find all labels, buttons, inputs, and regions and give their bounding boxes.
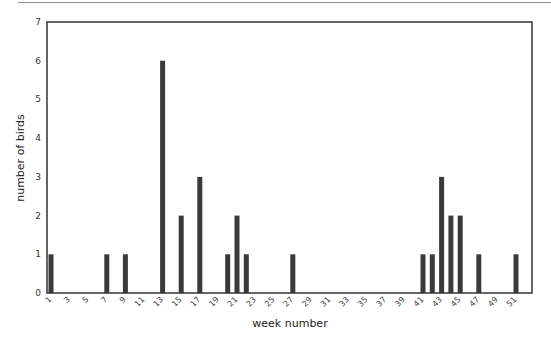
- bar-week-42: [430, 254, 435, 293]
- y-tick-label: 4: [35, 133, 41, 143]
- x-tick-label: 7: [99, 295, 109, 305]
- x-tick-label: 13: [151, 295, 165, 309]
- x-tick-label: 35: [356, 295, 370, 309]
- x-tick-label: 47: [468, 295, 482, 309]
- bar-week-45: [458, 216, 463, 293]
- x-tick-label: 33: [337, 295, 351, 309]
- x-tick-label: 5: [81, 295, 91, 305]
- bar-week-22: [244, 254, 249, 293]
- x-tick-label: 21: [226, 295, 240, 309]
- bar-week-15: [179, 216, 184, 293]
- x-tick-label: 1: [43, 295, 53, 305]
- x-tick-label: 49: [486, 295, 500, 309]
- bar-week-43: [439, 177, 444, 293]
- bars-group: [49, 61, 519, 293]
- x-tick-label: 45: [449, 295, 463, 309]
- x-tick-label: 23: [244, 295, 258, 309]
- bar-week-17: [197, 177, 202, 293]
- x-tick-label: 15: [170, 295, 184, 309]
- y-axis-title: number of birds: [14, 114, 27, 202]
- bar-week-41: [421, 254, 426, 293]
- y-tick-label: 0: [35, 288, 41, 298]
- x-tick-label: 29: [300, 295, 314, 309]
- x-axis-ticks: 1357911131517192123252729313335373941434…: [43, 295, 518, 309]
- bar-week-20: [225, 254, 230, 293]
- bar-week-27: [290, 254, 295, 293]
- x-tick-label: 11: [133, 295, 147, 309]
- y-tick-label: 2: [35, 211, 41, 221]
- x-tick-label: 17: [189, 295, 203, 309]
- x-tick-label: 9: [118, 295, 128, 305]
- x-tick-label: 3: [62, 295, 72, 305]
- bar-week-21: [235, 216, 240, 293]
- bar-week-9: [123, 254, 128, 293]
- x-tick-label: 41: [412, 295, 426, 309]
- x-tick-label: 27: [282, 295, 296, 309]
- y-tick-label: 7: [35, 17, 41, 27]
- y-tick-label: 1: [35, 249, 41, 259]
- y-tick-label: 5: [35, 94, 41, 104]
- y-axis-ticks: 01234567: [35, 17, 41, 298]
- bar-week-51: [514, 254, 519, 293]
- x-tick-label: 39: [393, 295, 407, 309]
- bar-week-47: [476, 254, 481, 293]
- y-tick-label: 3: [35, 172, 41, 182]
- x-tick-label: 37: [375, 295, 389, 309]
- y-tick-label: 6: [35, 56, 41, 66]
- bar-week-7: [104, 254, 109, 293]
- x-tick-label: 25: [263, 295, 277, 309]
- bar-week-13: [160, 61, 165, 293]
- x-axis-title: week number: [252, 317, 328, 330]
- x-tick-label: 51: [505, 295, 519, 309]
- bar-week-44: [448, 216, 453, 293]
- x-tick-label: 31: [319, 295, 333, 309]
- x-tick-label: 43: [430, 295, 444, 309]
- x-tick-label: 19: [207, 295, 221, 309]
- bar-week-1: [49, 254, 54, 293]
- bar-chart: 01234567 1357911131517192123252729313335…: [0, 0, 551, 345]
